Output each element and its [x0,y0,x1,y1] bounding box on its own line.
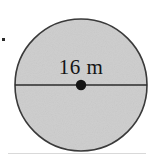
circle-diagram-svg [0,0,154,159]
list-bullet-mark [2,38,5,41]
center-point-dot [76,80,86,90]
circle-diagram-figure: 16 m [0,0,154,159]
diameter-measurement-label: 16 m [0,57,154,78]
scan-line-artifact [8,153,146,154]
